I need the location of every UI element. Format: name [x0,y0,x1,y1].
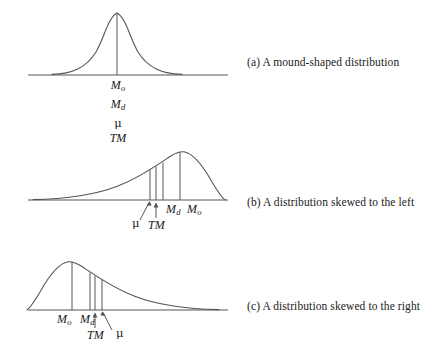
curve-mound-shaped [0,0,432,140]
label-trimmed-mean-c: TM [87,328,104,343]
label-mode-a: Mo [96,78,140,97]
arrow-head-mean-b [147,201,152,206]
caption-panel-b: (b) A distribution skewed to the left [247,196,414,208]
distribution-curve-c [27,262,219,310]
label-trimmed-mean-b: TM [148,218,165,233]
panel-mound-shaped: Mo Md μ TM (a) A mound-shaped distributi… [0,0,432,140]
caption-panel-a: (a) A mound-shaped distribution [247,56,399,68]
arrow-head-trimmed-mean-b [154,202,159,207]
label-mean-c: μ [116,326,123,340]
distribution-curve-b [33,152,225,200]
curve-skewed-left [0,140,432,250]
label-median-a: Md [96,97,140,116]
panel-skewed-left: μ TM Md Mo (b) A distribution skewed to … [0,140,432,250]
label-median-c: Md [80,312,94,327]
caption-panel-c: (c) A distribution skewed to the right [247,300,420,312]
label-mean-a: μ [96,116,140,132]
statistics-figure: Mo Md μ TM (a) A mound-shaped distributi… [0,0,432,364]
label-median-b: Md [166,202,180,217]
label-mode-c: Mo [57,312,71,327]
label-mode-b: Mo [187,202,201,217]
arrow-head-mean-c [100,311,105,316]
label-stack-a: Mo Md μ TM [96,78,140,147]
panel-skewed-right: Mo Md TM μ (c) A distribution skewed to … [0,250,432,364]
label-mean-b: μ [132,216,139,230]
